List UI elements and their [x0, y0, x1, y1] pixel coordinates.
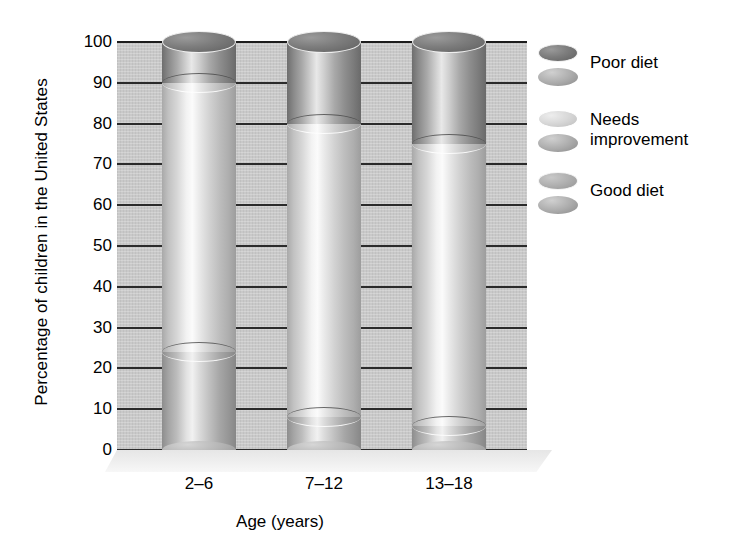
legend-swatch-cylinder-icon — [538, 172, 578, 214]
y-tick-label: 40 — [68, 278, 112, 295]
chart-figure: Percentage of children in the United Sta… — [0, 0, 736, 542]
x-tick-label: 7–12 — [264, 474, 384, 494]
bar-cylinder[interactable] — [412, 42, 486, 450]
bar-segment[interactable] — [287, 42, 361, 124]
plot-area — [117, 42, 527, 450]
y-tick-label: 20 — [68, 359, 112, 376]
x-tick-label: 2–6 — [139, 474, 259, 494]
y-tick-label: 80 — [68, 115, 112, 132]
bar-segment[interactable] — [162, 352, 236, 450]
y-tick-label: 50 — [68, 237, 112, 254]
y-tick-label: 60 — [68, 196, 112, 213]
segment-body — [162, 83, 236, 352]
bar-segment[interactable] — [412, 42, 486, 144]
y-tick-label: 90 — [68, 74, 112, 91]
bar-cylinder[interactable] — [162, 42, 236, 450]
cylinder-top-cap — [162, 31, 236, 53]
segment-body — [287, 42, 361, 124]
segment-body — [412, 144, 486, 426]
bar-cylinder[interactable] — [287, 42, 361, 450]
legend-swatch-cylinder-icon — [538, 110, 578, 152]
y-axis-tick-labels: 1009080706050403020100 — [60, 0, 112, 542]
x-axis-title: Age (years) — [0, 512, 560, 532]
x-tick-label: 13–18 — [389, 474, 509, 494]
y-axis-title: Percentage of children in the United Sta… — [32, 32, 52, 452]
legend-item[interactable]: Poor diet — [538, 44, 658, 86]
legend-item[interactable]: Good diet — [538, 172, 664, 214]
legend-label: Poor diet — [590, 44, 658, 73]
segment-body — [412, 42, 486, 144]
y-tick-label: 100 — [68, 33, 112, 50]
y-tick-label: 0 — [68, 441, 112, 458]
cylinder-top-cap — [412, 31, 486, 53]
cylinder-top-cap — [287, 31, 361, 53]
legend-label: Needsimprovement — [590, 110, 688, 150]
legend-label: Good diet — [590, 172, 664, 201]
legend-swatch-cylinder-icon — [538, 44, 578, 86]
floor-plane — [105, 450, 552, 472]
y-tick-label: 10 — [68, 400, 112, 417]
legend-item[interactable]: Needsimprovement — [538, 110, 688, 152]
y-tick-label: 70 — [68, 155, 112, 172]
bar-segment[interactable] — [287, 124, 361, 418]
bar-segment[interactable] — [162, 83, 236, 352]
bar-segment[interactable] — [412, 144, 486, 426]
y-tick-label: 30 — [68, 319, 112, 336]
segment-body — [287, 124, 361, 418]
segment-body — [162, 352, 236, 450]
